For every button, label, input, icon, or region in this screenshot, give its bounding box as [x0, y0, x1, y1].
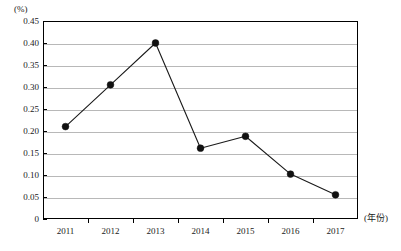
gridline: [44, 154, 357, 155]
x-axis-tick-label: 2013: [133, 226, 178, 236]
x-axis-tick-label: 2011: [43, 226, 88, 236]
y-axis-tick-mark: [43, 219, 47, 220]
x-axis-tick-mark: [268, 219, 269, 223]
line-chart-figure: (%) 00.050.100.150.200.250.300.350.400.4…: [0, 0, 401, 251]
gridline: [44, 132, 357, 133]
y-axis-tick-mark: [43, 109, 47, 110]
y-axis-tick-label: 0.15: [9, 149, 39, 158]
y-axis-tick-mark: [43, 43, 47, 44]
x-axis-tick-mark: [313, 219, 314, 223]
plot-area: [43, 21, 358, 219]
y-axis-tick-mark: [43, 65, 47, 66]
y-axis-tick-mark: [43, 197, 47, 198]
x-axis-tick-label: 2015: [223, 226, 268, 236]
gridline: [44, 176, 357, 177]
x-axis-tick-mark: [178, 219, 179, 223]
y-axis-tick-mark: [43, 87, 47, 88]
gridline: [44, 88, 357, 89]
y-axis-tick-label: 0.10: [9, 171, 39, 180]
y-axis-tick-mark: [43, 153, 47, 154]
y-axis-unit-label: (%): [14, 4, 28, 14]
y-axis-tick-mark: [43, 131, 47, 132]
y-axis-tick-label: 0.20: [9, 127, 39, 136]
y-axis-tick-label: 0.30: [9, 83, 39, 92]
y-axis-tick-label: 0.35: [9, 61, 39, 70]
x-axis-tick-label: 2017: [313, 226, 358, 236]
x-axis-tick-mark: [88, 219, 89, 223]
x-axis-tick-mark: [133, 219, 134, 223]
gridline: [44, 44, 357, 45]
gridline: [44, 110, 357, 111]
y-axis-tick-label: 0.05: [9, 193, 39, 202]
x-axis-unit-label: (年份): [364, 213, 388, 224]
y-axis-tick-label: 0.25: [9, 105, 39, 114]
x-axis-tick-label: 2012: [88, 226, 133, 236]
gridline: [44, 198, 357, 199]
x-axis-tick-label: 2014: [178, 226, 223, 236]
gridline: [44, 66, 357, 67]
y-axis-tick-mark: [43, 175, 47, 176]
y-axis-tick-label: 0: [9, 215, 39, 224]
x-axis-tick-label: 2016: [268, 226, 313, 236]
y-axis-tick-label: 0.40: [9, 39, 39, 48]
x-axis-tick-mark: [223, 219, 224, 223]
y-axis-tick-label: 0.45: [9, 17, 39, 26]
y-axis-tick-mark: [43, 21, 47, 22]
